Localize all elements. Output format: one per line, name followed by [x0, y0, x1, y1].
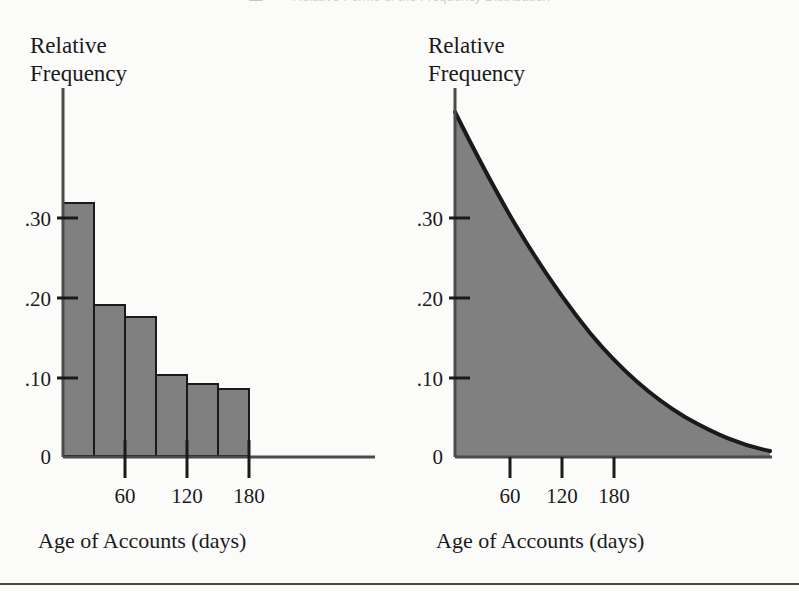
y-tick-label-30: .30	[25, 207, 51, 231]
x-tick-label-180: 180	[233, 484, 265, 508]
panel-smooth-curve: Relative Frequency .30 .20 .10 0	[400, 0, 799, 575]
x-tick-label-120: 120	[171, 484, 203, 508]
x-axis-title-histogram: Age of Accounts (days)	[38, 528, 246, 554]
x-tick-label-180: 180	[598, 484, 630, 508]
bar-0	[63, 203, 94, 456]
curve-plot: .30 .20 .10 0 60 120 180	[400, 0, 799, 520]
bar-1	[94, 305, 125, 456]
y-tick-label-10: .10	[25, 367, 51, 391]
bar-4	[187, 384, 218, 456]
histogram-plot: .30 .20 .10 0 60 120 180	[0, 0, 400, 520]
bar-5	[218, 389, 249, 456]
y-tick-label-0: 0	[41, 445, 52, 469]
page-bottom-rule	[0, 583, 799, 585]
panel-histogram: Relative Frequency .30	[0, 0, 400, 575]
y-tick-label-20: .20	[417, 287, 443, 311]
figure-page: { "figure": { "caption": "Relative Forms…	[0, 0, 799, 591]
x-tick-label-60: 60	[115, 484, 136, 508]
curve-svg: .30 .20 .10 0 60 120 180	[400, 0, 799, 520]
histogram-svg: .30 .20 .10 0 60 120 180	[0, 0, 400, 520]
bar-3	[156, 375, 187, 456]
x-axis-title-curve: Age of Accounts (days)	[436, 528, 644, 554]
x-tick-label-120: 120	[546, 484, 578, 508]
y-tick-label-30: .30	[417, 207, 443, 231]
y-tick-label-10: .10	[417, 367, 443, 391]
y-tick-label-20: .20	[25, 287, 51, 311]
y-tick-label-0: 0	[433, 445, 444, 469]
histogram-bars	[63, 203, 249, 456]
x-tick-label-60: 60	[500, 484, 521, 508]
area-under-curve	[455, 112, 770, 456]
x-axis-ticks	[510, 457, 614, 478]
bar-2	[125, 317, 156, 456]
